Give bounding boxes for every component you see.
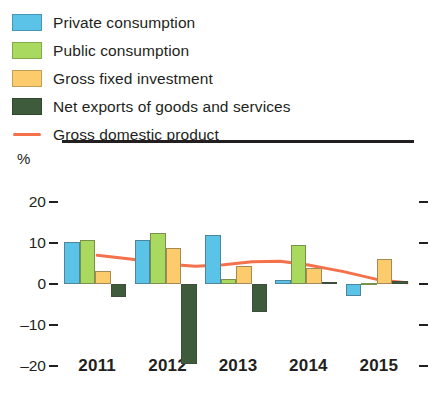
bar (236, 266, 252, 284)
bar (252, 284, 268, 312)
y-axis-tick-mark-right (419, 365, 428, 367)
y-axis-tick-mark-right (419, 324, 428, 326)
bar (392, 281, 408, 284)
bar (221, 279, 237, 284)
bar (111, 284, 127, 297)
legend-item-label: Public consumption (53, 42, 189, 59)
bar (205, 235, 221, 284)
legend-item-label: Gross fixed investment (53, 70, 213, 87)
bar (377, 259, 393, 284)
legend-item: Public consumption (12, 38, 189, 62)
zero-baseline (62, 140, 414, 143)
bar (150, 233, 166, 285)
bar (346, 284, 362, 296)
legend-color-swatch-icon (12, 98, 42, 115)
y-axis-tick-mark-right (419, 242, 428, 244)
bar (361, 283, 377, 285)
y-axis-tick-mark (49, 201, 58, 203)
y-axis-unit-label: % (17, 150, 30, 167)
bar (181, 284, 197, 364)
y-axis-tick-mark (49, 324, 58, 326)
legend-item-label: Net exports of goods and services (53, 98, 291, 115)
y-axis-tick-label: 0 (0, 275, 46, 293)
legend-color-swatch-icon (12, 14, 42, 31)
legend-item-label: Private consumption (53, 14, 195, 31)
bar (275, 280, 291, 284)
bar (80, 240, 96, 284)
y-axis-tick-mark-right (419, 283, 428, 285)
plot-region (62, 140, 414, 396)
legend-item: Gross fixed investment (12, 66, 213, 90)
legend-item: Net exports of goods and services (12, 94, 291, 118)
bar (306, 268, 322, 284)
bar (291, 245, 307, 284)
bar (95, 271, 111, 284)
y-axis-tick-mark (49, 283, 58, 285)
y-axis-tick-label: –20 (0, 357, 46, 375)
legend-color-swatch-icon (12, 42, 42, 59)
y-axis-tick-label: –10 (0, 316, 46, 334)
chart-legend: Private consumptionPublic consumptionGro… (0, 0, 439, 140)
y-axis-tick-mark (49, 365, 58, 367)
bar (135, 240, 151, 284)
y-axis-tick-label: 10 (0, 234, 46, 252)
y-axis-tick-label: 20 (0, 193, 46, 211)
bar (64, 242, 80, 284)
legend-color-swatch-icon (12, 70, 42, 87)
chart-area: % 20100–10–20 20112012201320142015 (0, 140, 439, 396)
bar (166, 248, 182, 284)
y-axis-tick-mark-right (419, 201, 428, 203)
bar (322, 282, 338, 284)
legend-item: Private consumption (12, 10, 195, 34)
y-axis-tick-mark (49, 242, 58, 244)
